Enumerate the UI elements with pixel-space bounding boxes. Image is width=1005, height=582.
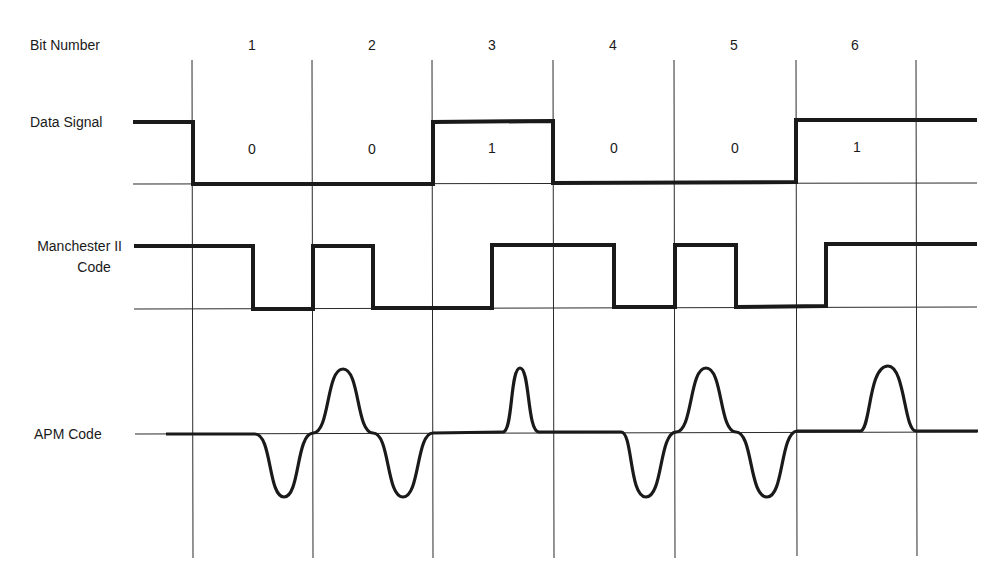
data-bit-value: 0 <box>248 141 256 157</box>
row-label-apm-code: APM Code <box>34 426 102 442</box>
bit-number: 4 <box>609 37 617 53</box>
row-label-manchester-line1: Manchester II <box>37 238 122 254</box>
manchester-waveform <box>134 244 977 309</box>
bit-number: 6 <box>851 37 859 53</box>
bit-number: 3 <box>488 37 496 53</box>
row-label-data-signal: Data Signal <box>30 114 102 130</box>
signal-encoding-diagram: Bit Number Data Signal Manchester II Cod… <box>0 0 1005 582</box>
data-bit-value: 0 <box>610 140 618 156</box>
bit-number: 2 <box>368 37 376 53</box>
bit-number: 5 <box>730 37 738 53</box>
bit-number: 1 <box>248 37 256 53</box>
row-label-manchester-line2: Code <box>77 259 111 275</box>
apm-waveform <box>166 366 978 497</box>
data-bit-value: 1 <box>853 139 861 155</box>
data-bit-value: 0 <box>731 140 739 156</box>
row-label-bit-number: Bit Number <box>30 37 100 53</box>
data-signal-waveform <box>133 120 977 184</box>
data-bit-value: 0 <box>368 141 376 157</box>
bit-number-row: 1 2 3 4 5 6 <box>248 37 859 53</box>
data-bit-value: 1 <box>488 140 496 156</box>
